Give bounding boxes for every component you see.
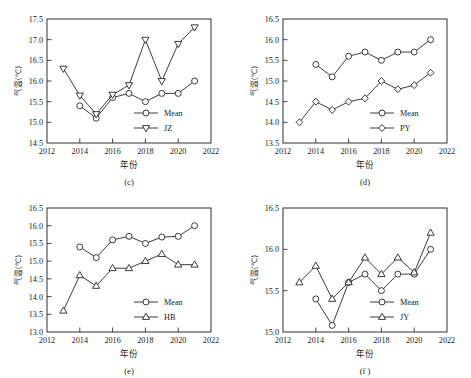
- data-point: [175, 261, 182, 267]
- data-point: [395, 86, 402, 93]
- x-tick-label: 2016: [104, 147, 120, 156]
- legend-label: Mean: [164, 298, 183, 307]
- data-point: [125, 83, 132, 89]
- x-tick-label: 2018: [373, 336, 389, 345]
- data-point: [427, 69, 434, 76]
- data-point: [126, 233, 132, 239]
- data-point: [346, 53, 352, 59]
- x-tick-label: 2014: [72, 336, 88, 345]
- y-tick-label: 17.5: [29, 15, 43, 24]
- chart-panel-c: 20122014201620182020202214.515.015.516.0…: [0, 0, 235, 189]
- y-tick-label: 15.0: [29, 257, 43, 266]
- data-point: [313, 61, 319, 67]
- y-tick-label: 14.5: [29, 139, 43, 148]
- data-point: [329, 322, 335, 328]
- series-Mean: [313, 246, 434, 328]
- x-tick-label: 2012: [39, 147, 55, 156]
- series-Mean: [313, 37, 434, 80]
- data-point: [395, 271, 401, 277]
- chart-svg: 20122014201620182020202213.514.014.515.0…: [236, 0, 471, 189]
- plot-area-d: 20122014201620182020202213.514.014.515.0…: [236, 0, 471, 189]
- figure-panel-grid: 20122014201620182020202214.515.015.516.0…: [0, 0, 471, 378]
- data-point: [77, 103, 83, 109]
- y-tick-label: 16.5: [29, 56, 43, 65]
- legend: MeanJZ: [128, 103, 206, 137]
- x-tick-label: 2022: [203, 336, 219, 345]
- legend-marker: [378, 313, 385, 319]
- y-tick-label: 16.0: [29, 77, 43, 86]
- x-tick-label: 2014: [308, 147, 324, 156]
- x-tick-label: 2012: [275, 336, 291, 345]
- legend-marker: [143, 110, 149, 116]
- panel-caption: (c): [124, 177, 134, 187]
- legend: MeanJY: [364, 292, 442, 326]
- data-point: [329, 74, 335, 80]
- series-line: [316, 249, 431, 325]
- y-tick-label: 16.5: [29, 204, 43, 213]
- data-point: [159, 90, 165, 96]
- data-point: [192, 223, 198, 229]
- y-tick-label: 15.0: [265, 77, 279, 86]
- x-tick-label: 2014: [308, 336, 324, 345]
- data-point: [345, 98, 352, 105]
- y-tick-label: 16.5: [265, 15, 279, 24]
- legend-label: Mean: [400, 298, 419, 307]
- plot-area-f: 20122014201620182020202215.015.516.016.5…: [236, 189, 471, 378]
- x-axis-title: 年份: [356, 159, 374, 170]
- legend-label: JY: [400, 313, 409, 322]
- panel-caption: (d): [360, 177, 370, 187]
- y-axis-title: 气温(℃): [249, 255, 259, 285]
- legend: MeanHB: [128, 292, 206, 326]
- y-tick-label: 17.0: [29, 36, 43, 45]
- axis-frame: [283, 208, 447, 332]
- chart-svg: 20122014201620182020202215.015.516.016.5…: [236, 189, 471, 378]
- y-tick-label: 14.5: [265, 98, 279, 107]
- data-point: [411, 82, 418, 89]
- chart-panel-f: 20122014201620182020202215.015.516.016.5…: [236, 189, 471, 378]
- chart-svg: 20122014201620182020202214.515.015.516.0…: [0, 0, 235, 189]
- data-point: [362, 49, 368, 55]
- legend-marker: [143, 299, 149, 305]
- x-tick-label: 2016: [340, 147, 356, 156]
- legend: MeanPY: [364, 103, 442, 137]
- legend-label: JZ: [164, 124, 172, 133]
- legend-marker: [142, 126, 149, 132]
- plot-area-c: 20122014201620182020202214.515.015.516.0…: [0, 0, 235, 189]
- x-tick-label: 2022: [439, 147, 455, 156]
- data-point: [427, 229, 434, 235]
- data-point: [93, 255, 99, 261]
- y-tick-label: 13.5: [265, 139, 279, 148]
- data-point: [175, 90, 181, 96]
- x-tick-label: 2022: [439, 336, 455, 345]
- x-axis-title: 年份: [120, 348, 138, 359]
- y-tick-label: 16.5: [265, 204, 279, 213]
- data-point: [77, 244, 83, 250]
- data-point: [191, 261, 198, 267]
- legend-marker: [379, 299, 385, 305]
- data-point: [142, 240, 148, 246]
- data-point: [175, 233, 181, 239]
- data-point: [126, 90, 132, 96]
- y-tick-label: 15.0: [29, 118, 43, 127]
- x-tick-label: 2018: [373, 147, 389, 156]
- y-tick-label: 15.5: [29, 239, 43, 248]
- legend-marker: [379, 125, 386, 132]
- data-point: [142, 99, 148, 105]
- data-point: [192, 78, 198, 84]
- x-tick-label: 2014: [72, 147, 88, 156]
- series-line: [316, 40, 431, 77]
- legend-marker: [379, 110, 385, 116]
- y-tick-label: 14.5: [29, 275, 43, 284]
- data-point: [110, 237, 116, 243]
- x-tick-label: 2018: [137, 147, 153, 156]
- x-axis-title: 年份: [120, 159, 138, 170]
- series-Mean: [77, 223, 198, 261]
- chart-panel-d: 20122014201620182020202213.514.014.515.0…: [236, 0, 471, 189]
- panel-caption: (e): [124, 366, 134, 376]
- legend-label: PY: [400, 124, 411, 133]
- data-point: [428, 246, 434, 252]
- data-point: [76, 272, 83, 278]
- chart-panel-e: 20122014201620182020202213.013.514.014.5…: [0, 189, 235, 378]
- x-tick-label: 2022: [203, 147, 219, 156]
- y-tick-label: 14.0: [29, 293, 43, 302]
